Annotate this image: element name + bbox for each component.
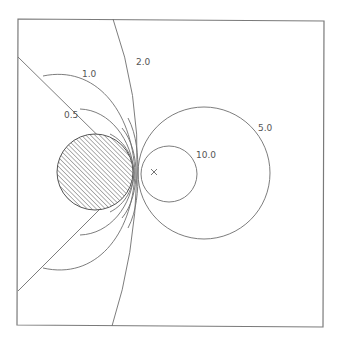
label-10-0: 10.0 bbox=[196, 150, 216, 160]
source-x-marker bbox=[151, 169, 157, 175]
label-5-0: 5.0 bbox=[258, 123, 273, 133]
label-2-0: 2.0 bbox=[136, 57, 151, 67]
hatched-obstacle-circle bbox=[57, 134, 133, 210]
contour-10-0 bbox=[141, 146, 197, 202]
label-1-0: 1.0 bbox=[82, 69, 97, 79]
label-0-5: 0.5 bbox=[64, 110, 78, 120]
contour-5-0 bbox=[138, 107, 270, 239]
contour-diagram: 0.5 1.0 2.0 5.0 10.0 bbox=[0, 0, 341, 343]
